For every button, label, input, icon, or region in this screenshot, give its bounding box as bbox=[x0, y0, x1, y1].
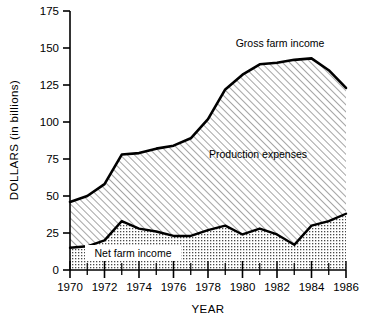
x-tick-label: 1972 bbox=[92, 281, 118, 293]
x-tick-label: 1986 bbox=[333, 281, 359, 293]
x-tick-label: 1976 bbox=[161, 281, 187, 293]
x-tick-label: 1978 bbox=[195, 281, 221, 293]
farm-income-chart: 1751501251007550250 DOLLARS (in billions… bbox=[0, 0, 367, 320]
annotation-production-label: Production expenses bbox=[209, 148, 307, 160]
chart-canvas: 1751501251007550250 DOLLARS (in billions… bbox=[0, 0, 367, 320]
x-tick-label: 1982 bbox=[264, 281, 290, 293]
x-tick-label: 1984 bbox=[299, 281, 325, 293]
y-axis-title: DOLLARS (in billions) bbox=[8, 80, 20, 200]
y-tick-label: 0 bbox=[53, 264, 59, 276]
x-tick-label: 1970 bbox=[57, 281, 83, 293]
x-tick-label: 1974 bbox=[126, 281, 152, 293]
annotation-production-expenses: Production expenses bbox=[209, 148, 307, 160]
y-tick-label: 25 bbox=[46, 227, 59, 239]
y-tick-label: 125 bbox=[40, 79, 59, 91]
x-axis-title: YEAR bbox=[192, 303, 225, 315]
annotation-net-farm-income: Net farm income bbox=[85, 245, 181, 261]
x-tick-label: 1980 bbox=[230, 281, 256, 293]
y-tick-label: 50 bbox=[46, 190, 59, 202]
y-tick-label: 75 bbox=[46, 153, 59, 165]
y-tick-label: 100 bbox=[40, 116, 59, 128]
y-tick-label: 150 bbox=[40, 42, 59, 54]
annotation-gross-label: Gross farm income bbox=[236, 37, 325, 49]
x-tick-labels: 197019721974197619781980198219841986 bbox=[57, 281, 359, 293]
annotation-net-label: Net farm income bbox=[94, 247, 171, 259]
annotation-gross-farm-income: Gross farm income bbox=[236, 37, 325, 49]
y-tick-label: 175 bbox=[40, 5, 59, 17]
